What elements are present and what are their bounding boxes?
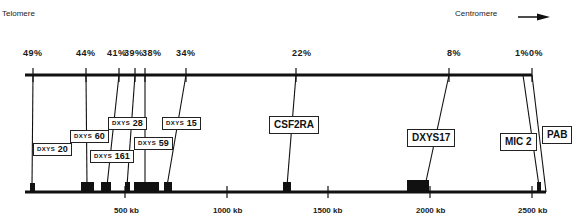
- axis-tick-label: 1500 kb: [313, 206, 342, 215]
- marker-mic2: MIC 2: [500, 133, 537, 151]
- axis-tick-label: 500 kb: [114, 206, 139, 215]
- marker-dxys161: DXYS 161: [90, 150, 134, 163]
- marker-pab: PAB: [542, 126, 572, 144]
- marker-dxys60: DXYS 60: [70, 130, 109, 143]
- axis-tick-label: 1000 kb: [213, 206, 242, 215]
- marker-dxys17: DXYS17: [407, 129, 455, 147]
- map-lines: [0, 0, 575, 224]
- marker-dxys28: DXYS 28: [108, 117, 147, 130]
- right-arrow-icon: [518, 14, 550, 21]
- marker-dxys59: DXYS 59: [134, 137, 173, 150]
- axis-tick-label: 2000 kb: [416, 206, 445, 215]
- axis-tick-label: 2500 kb: [518, 206, 547, 215]
- marker-dxys20: DXYS 20: [33, 143, 72, 156]
- physical-map-diagram: Telomere Centromere 49% 44% 41% 39% 38% …: [0, 0, 575, 224]
- marker-csf2ra: CSF2RA: [269, 116, 319, 134]
- marker-dxys15: DXYS 15: [162, 117, 201, 130]
